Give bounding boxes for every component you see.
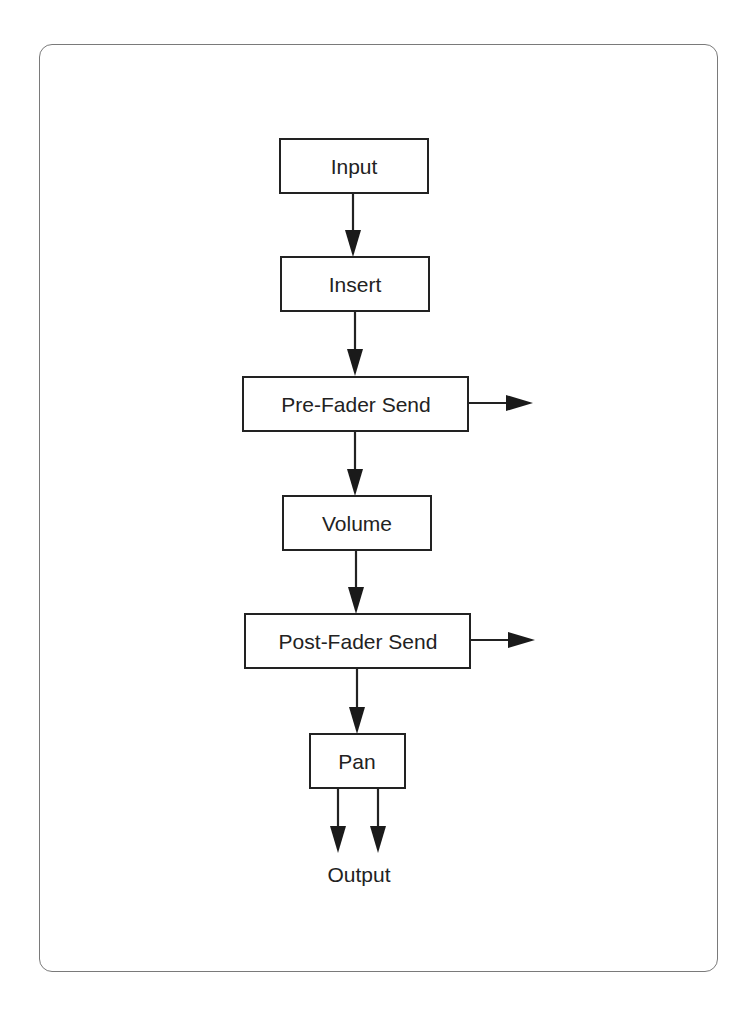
output-label: Output xyxy=(327,863,390,886)
node-input-label: Input xyxy=(331,155,378,178)
arrow-pan-output-right xyxy=(370,788,386,853)
arrow-post-fader-send-out xyxy=(470,632,535,648)
node-insert: Insert xyxy=(281,257,429,311)
node-post-fader-send: Post-Fader Send xyxy=(245,614,470,668)
arrow-insert-to-pre-fader xyxy=(347,311,363,376)
node-volume-label: Volume xyxy=(322,512,392,535)
arrow-pre-fader-send-out xyxy=(468,395,533,411)
arrow-pre-fader-to-volume xyxy=(347,431,363,496)
arrow-input-to-insert xyxy=(345,193,361,257)
node-volume: Volume xyxy=(283,496,431,550)
node-insert-label: Insert xyxy=(329,273,382,296)
arrow-pan-output-left xyxy=(330,788,346,853)
arrow-volume-to-post-fader xyxy=(348,550,364,614)
node-input: Input xyxy=(280,139,428,193)
node-pan: Pan xyxy=(310,734,405,788)
arrow-post-fader-to-pan xyxy=(349,668,365,734)
node-pre-fader-send-label: Pre-Fader Send xyxy=(281,393,430,416)
signal-flow-diagram: Input Insert Pre-Fader Send Volume Post-… xyxy=(0,0,748,1025)
node-post-fader-send-label: Post-Fader Send xyxy=(279,630,438,653)
node-pan-label: Pan xyxy=(338,750,375,773)
node-pre-fader-send: Pre-Fader Send xyxy=(243,377,468,431)
